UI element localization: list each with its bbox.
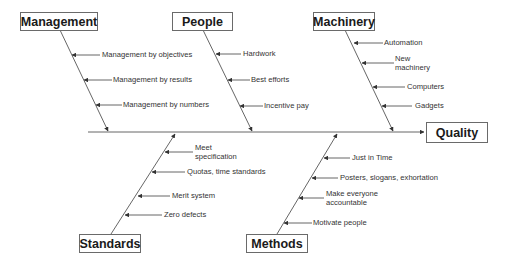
category-machinery-box: Machinery xyxy=(313,12,375,31)
cause-label: accountable xyxy=(326,199,367,207)
cause-label: Computers xyxy=(407,83,444,91)
cause-label: Incentive pay xyxy=(264,102,309,110)
cause-label: machinery xyxy=(395,64,430,72)
people-bone xyxy=(203,30,252,131)
cause-label: Automation xyxy=(384,39,422,47)
cause-label: Management by numbers xyxy=(123,101,209,109)
fishbone-diagram: Management People Machinery Standards Me… xyxy=(0,0,507,269)
effect-quality-box: Quality xyxy=(426,122,488,143)
cause-label: Just in Time xyxy=(352,154,393,162)
cause-label: Zero defects xyxy=(164,211,206,219)
cause-label: Management by objectives xyxy=(102,51,192,59)
category-people-box: People xyxy=(172,12,233,31)
cause-label: Posters, slogans, exhortation xyxy=(340,174,438,182)
cause-label: specification xyxy=(195,153,237,161)
cause-label: Gadgets xyxy=(415,102,444,110)
category-standards-box: Standards xyxy=(79,234,141,253)
cause-label: Quotas, time standards xyxy=(187,168,266,176)
cause-label: Motivate people xyxy=(313,219,367,227)
cause-label: Hardwork xyxy=(243,50,276,58)
cause-label: Management by results xyxy=(113,76,192,84)
category-management-box: Management xyxy=(20,12,98,31)
cause-label: Merit system xyxy=(172,192,215,200)
category-methods-box: Methods xyxy=(246,234,308,253)
cause-label: Best efforts xyxy=(251,76,289,84)
management-bone xyxy=(60,30,108,131)
